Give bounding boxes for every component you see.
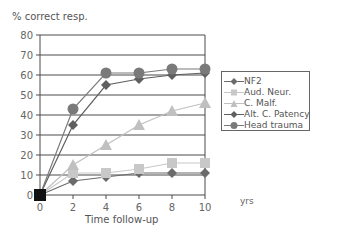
square-marker-icon [101,168,111,178]
square-marker-icon [224,88,244,97]
legend-label: C. Malf. [244,98,277,108]
legend-item-head-trauma: Head trauma [222,120,309,131]
x-tick-label: 0 [37,202,43,213]
legend-item-aud-neur: Aud. Neur. [222,87,309,98]
series-line [40,73,205,195]
circle-marker-icon [224,121,244,130]
x-tick-label: 8 [169,202,175,213]
y-tick-label: 20 [20,150,33,161]
triangle-marker-icon [199,97,211,108]
square-marker-icon [167,158,177,168]
circle-marker-icon [68,104,79,115]
series-line [40,173,205,195]
y-tick-label: 10 [20,170,33,181]
series-line [40,69,205,195]
diamond-marker-icon [200,168,210,178]
x-axis-title: Time follow-up [85,214,158,225]
y-tick-label: 80 [20,30,33,41]
legend-label: Head trauma [244,120,303,130]
legend-item-c-malf: C. Malf. [222,98,309,109]
legend-item-alt-c-patency: Alt. C. Patency [222,109,309,120]
triangle-marker-icon [100,139,112,150]
legend: NF2 Aud. Neur. C. Malf. Alt. C. Patency … [221,71,310,131]
y-tick-label: 60 [20,70,33,81]
circle-marker-icon [101,68,112,79]
origin-marker-icon [34,189,46,201]
diamond-marker-icon [167,168,177,178]
y-tick-label: 0 [27,190,33,201]
y-tick-label: 50 [20,90,33,101]
series-line [40,163,205,195]
legend-label: Aud. Neur. [244,87,291,97]
y-tick-label: 30 [20,130,33,141]
x-tick-label: 6 [136,202,142,213]
square-marker-icon [134,164,144,174]
diamond-marker-icon [224,77,244,86]
legend-label: Alt. C. Patency [244,109,310,119]
y-tick-label: 70 [20,50,33,61]
triangle-marker-icon [133,119,145,130]
triangle-marker-icon [224,99,244,108]
x-tick-label: 2 [70,202,76,213]
x-tick-label: 4 [103,202,109,213]
diamond-marker-icon [224,110,244,119]
x-tick-label: 10 [199,202,212,213]
x-axis-unit: yrs [240,196,254,206]
legend-label: NF2 [244,76,262,86]
y-tick-label: 40 [20,110,33,121]
series-line [40,103,205,195]
legend-item-nf2: NF2 [222,76,309,87]
triangle-marker-icon [67,159,79,170]
circle-marker-icon [167,64,178,75]
circle-marker-icon [134,68,145,79]
square-marker-icon [200,158,210,168]
circle-marker-icon [200,64,211,75]
